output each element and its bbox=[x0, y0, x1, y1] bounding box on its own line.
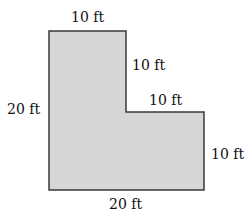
l-shape bbox=[49, 31, 204, 190]
diagram-canvas: 10 ft 10 ft 10 ft 20 ft 10 ft 20 ft bbox=[0, 0, 252, 218]
label-inner-vertical-side: 10 ft bbox=[132, 58, 165, 72]
label-bottom-side: 20 ft bbox=[109, 197, 142, 211]
label-right-side: 10 ft bbox=[211, 147, 244, 161]
label-top-side: 10 ft bbox=[71, 10, 104, 24]
label-left-side: 20 ft bbox=[7, 102, 40, 116]
label-inner-horizontal-side: 10 ft bbox=[149, 93, 182, 107]
